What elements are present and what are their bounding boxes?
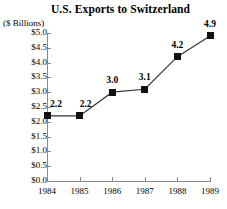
y-axis-tick-label: $3.0 — [2, 86, 47, 97]
y-axis-tick-label: $4.0 — [2, 57, 47, 68]
data-point-marker — [44, 112, 51, 119]
chart-title: U.S. Exports to Switzerland — [0, 3, 227, 16]
plot-area: $0.0$0.5$1.0$1.5$2.0$2.5$3.0$3.5$4.0$4.5… — [47, 33, 210, 181]
data-point-label: 4.9 — [190, 19, 227, 30]
y-axis-tick-label: $0.0 — [2, 175, 47, 186]
data-point-marker — [141, 86, 148, 93]
x-axis-tick-mark — [210, 177, 211, 182]
data-point-label: 2.2 — [66, 99, 106, 110]
x-axis-line — [47, 181, 210, 182]
y-axis-tick-label: $4.5 — [2, 42, 47, 53]
y-axis-tick-label: $1.0 — [2, 145, 47, 156]
x-axis-tick-label: 1989 — [190, 186, 227, 197]
chart-figure: U.S. Exports to Switzerland ($ Billions)… — [0, 0, 227, 209]
y-axis-tick-label: $1.5 — [2, 131, 47, 142]
data-point-marker — [76, 112, 83, 119]
data-point-marker — [109, 89, 116, 96]
data-point-marker — [207, 32, 214, 39]
y-axis-tick-label: $5.0 — [2, 27, 47, 38]
y-axis-tick-label: $0.5 — [2, 160, 47, 171]
data-point-label: 4.2 — [157, 40, 197, 51]
data-point-label: 3.1 — [125, 72, 165, 83]
y-axis-tick-label: $2.0 — [2, 116, 47, 127]
data-point-marker — [174, 53, 181, 60]
y-axis-tick-label: $3.5 — [2, 71, 47, 82]
